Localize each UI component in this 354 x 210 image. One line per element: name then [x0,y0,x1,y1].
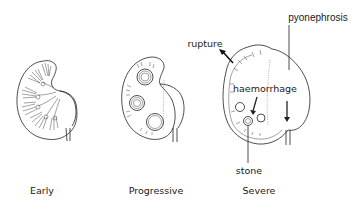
stage-label-severe: Severe [243,185,276,196]
stage-label-progressive: Progressive [129,185,184,196]
annotation-rupture: rupture [187,38,222,49]
annotation-haemorrhage: haemorrhage [233,83,297,94]
annotation-stone: stone [236,165,263,176]
kidney-early-pelvis [60,91,76,126]
kidney-stages-diagram: Early Progressive Severe rupture pyoneph… [0,0,354,210]
kidney-progressive [122,57,184,142]
kidney-progressive-calyces [126,62,164,135]
kidney-severe [219,25,310,163]
kidney-early-ureter [66,128,70,141]
rupture-arrow [223,52,233,63]
kidney-early-calyces [22,63,60,130]
kidney-severe-outline [223,45,310,144]
stage-label-early: Early [30,185,54,196]
kidney-early-outline [17,61,77,140]
kidney-progressive-ureter [173,128,177,142]
kidney-early [17,61,77,141]
annotation-pyonephrosis: pyonephrosis [288,12,347,23]
kidney-severe-inner-wall [229,55,282,139]
